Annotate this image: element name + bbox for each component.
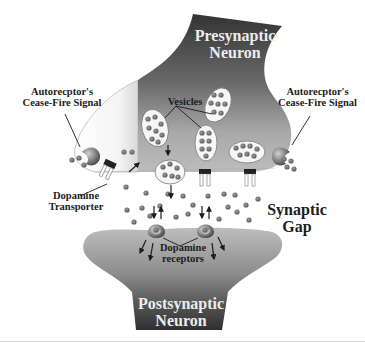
label-autoreceptor-right: Autorecptor's Cease-Fire Signal bbox=[270, 86, 365, 108]
label-line: Postsynaptic bbox=[133, 296, 229, 313]
label-line: Dopamine bbox=[36, 190, 116, 201]
bottom-divider bbox=[0, 341, 365, 342]
diagram-graphic bbox=[0, 0, 365, 345]
label-line: Neuron bbox=[190, 45, 280, 62]
label-line: Dopamine bbox=[152, 242, 214, 253]
label-dopamine-transporter: Dopamine Transporter bbox=[36, 190, 116, 212]
label-line: Autorecptor's bbox=[12, 86, 112, 97]
label-line: Transporter bbox=[36, 201, 116, 212]
label-dopamine-receptors: Dopamine receptors bbox=[152, 242, 214, 264]
label-line: Cease-Fire Signal bbox=[12, 97, 112, 108]
autoreceptor-right bbox=[272, 147, 290, 165]
label-vesicles: Vesicles bbox=[160, 96, 210, 107]
label-presynaptic-neuron: Presynaptic Neuron bbox=[190, 28, 280, 62]
label-line: receptors bbox=[152, 253, 214, 264]
label-line: Presynaptic bbox=[190, 28, 280, 45]
label-line: Cease-Fire Signal bbox=[270, 97, 365, 108]
label-line: Neuron bbox=[133, 313, 229, 330]
synapse-diagram: Presynaptic Neuron Autorecptor's Cease-F… bbox=[0, 0, 365, 345]
label-autoreceptor-left: Autorecptor's Cease-Fire Signal bbox=[12, 86, 112, 108]
label-postsynaptic-neuron: Postsynaptic Neuron bbox=[133, 296, 229, 330]
label-line: Gap bbox=[262, 219, 332, 236]
label-synaptic-gap: Synaptic Gap bbox=[262, 202, 332, 236]
label-line: Synaptic bbox=[262, 202, 332, 219]
label-line: Autorecptor's bbox=[270, 86, 365, 97]
